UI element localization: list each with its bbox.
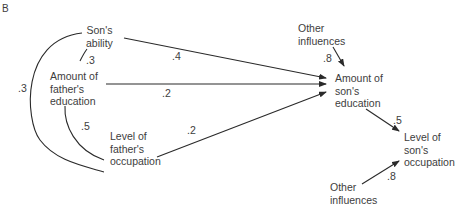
node-text: occupation [110, 155, 161, 168]
path-arrow-other-to-sons-education [333, 47, 344, 66]
coef-fathers-education-to-sons-education: .2 [162, 87, 171, 99]
coef-other-to-sons-occupation: .8 [387, 170, 396, 182]
node-other-influences-education: Other influences [298, 22, 345, 47]
node-text: influences [330, 194, 377, 207]
node-text: Amount of [335, 72, 383, 85]
coef-ability-to-sons-education: .4 [172, 50, 181, 62]
node-other-influences-occupation: Other influences [330, 181, 377, 206]
node-text: influences [298, 35, 345, 48]
node-fathers-education: Amount of father's education [50, 70, 98, 108]
node-text: Level of [404, 131, 455, 144]
coef-fathers-education-fathers-occupation: .5 [81, 120, 90, 132]
node-text: father's [110, 143, 161, 156]
coef-fathers-occupation-to-sons-education: .2 [187, 124, 196, 136]
node-sons-ability: Son's ability [86, 24, 113, 49]
node-sons-education: Amount of son's education [335, 72, 383, 110]
coef-ability-fathers-occupation: .3 [18, 82, 27, 94]
panel-label: B [2, 3, 9, 14]
coef-ability-fathers-education: .3 [86, 54, 95, 66]
node-text: father's [50, 83, 98, 96]
node-sons-occupation: Level of son's occupation [404, 131, 455, 169]
node-text: Level of [110, 130, 161, 143]
node-text: Amount of [50, 70, 98, 83]
path-arrow-fathers-occupation-to-sons-education [157, 92, 326, 157]
node-text: ability [86, 37, 113, 50]
coef-sons-education-to-sons-occupation: .5 [393, 114, 402, 126]
node-text: education [335, 97, 383, 110]
node-text: son's [335, 85, 383, 98]
node-text: Other [298, 22, 345, 35]
node-fathers-occupation: Level of father's occupation [110, 130, 161, 168]
coef-other-to-sons-education: .8 [323, 52, 332, 64]
node-text: occupation [404, 156, 455, 169]
path-arrow-ability-to-sons-education [124, 38, 326, 78]
node-text: Other [330, 181, 377, 194]
node-text: education [50, 95, 98, 108]
correlation-curve-fathers-education-fathers-occupation [65, 106, 104, 160]
node-text: son's [404, 144, 455, 157]
node-text: Son's [86, 24, 113, 37]
